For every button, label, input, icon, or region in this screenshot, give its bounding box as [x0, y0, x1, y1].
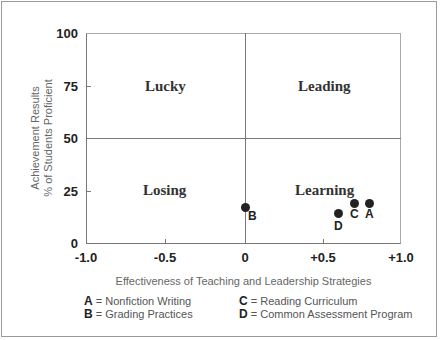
x-tick-label: 0	[220, 250, 270, 265]
quadrant-label-learning: Learning	[295, 182, 354, 199]
legend-sep: =	[251, 308, 257, 320]
x-tick-label: +0.5	[298, 250, 348, 265]
y-axis-title-line1: Achievement Results	[29, 79, 42, 196]
legend-sep: =	[251, 295, 257, 307]
legend-key: A	[84, 294, 93, 308]
quadrant-divider-horizontal	[86, 138, 401, 139]
x-axis-title: Effectiveness of Teaching and Leadership…	[86, 275, 401, 287]
point-label-a: A	[365, 207, 374, 221]
y-tick-label: 0	[40, 236, 78, 251]
legend-text: Nonfiction Writing	[105, 295, 191, 307]
legend-item-b: B = Grading Practices	[84, 307, 193, 321]
x-tick-pos-0-5	[323, 239, 324, 244]
point-label-c: C	[350, 207, 359, 221]
data-point-d	[334, 209, 343, 218]
x-tick-label: +1.0	[376, 250, 426, 265]
y-tick-75	[86, 86, 91, 87]
legend-key: D	[239, 307, 248, 321]
y-tick-25	[86, 191, 91, 192]
legend-sep: =	[96, 295, 102, 307]
quadrant-label-lucky: Lucky	[145, 78, 186, 95]
legend-item-c: C = Reading Curriculum	[239, 294, 357, 308]
legend-item-a: A = Nonfiction Writing	[84, 294, 191, 308]
legend-sep: =	[96, 308, 102, 320]
legend-key: B	[84, 307, 93, 321]
legend-key: C	[239, 294, 248, 308]
legend-item-d: D = Common Assessment Program	[239, 307, 412, 321]
legend-text: Grading Practices	[105, 308, 192, 320]
x-tick-label: -0.5	[140, 250, 190, 265]
quadrant-label-leading: Leading	[298, 78, 351, 95]
y-axis-title: Achievement Results % of Students Profic…	[29, 79, 55, 196]
legend-text: Common Assessment Program	[260, 308, 412, 320]
x-tick-neg-0-5	[165, 239, 166, 244]
x-tick-label: -1.0	[61, 250, 111, 265]
point-label-b: B	[248, 209, 257, 223]
legend-text: Reading Curriculum	[260, 295, 357, 307]
y-axis-title-line2: % of Students Proficient	[42, 79, 55, 196]
y-tick-label: 100	[40, 26, 78, 41]
quadrant-label-losing: Losing	[143, 182, 186, 199]
point-label-d: D	[334, 219, 343, 233]
